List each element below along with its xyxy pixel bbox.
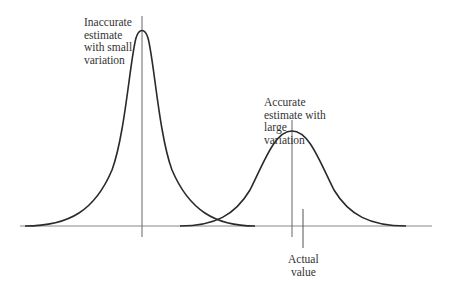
accurate-estimate-label: Accurate estimate with large variation — [264, 96, 326, 146]
actual-value-label: Actual value — [288, 253, 319, 278]
diagram-canvas — [0, 0, 450, 289]
inaccurate-estimate-label: Inaccurate estimate with small variation — [84, 16, 132, 66]
inaccurate-estimate-curve — [25, 31, 255, 227]
